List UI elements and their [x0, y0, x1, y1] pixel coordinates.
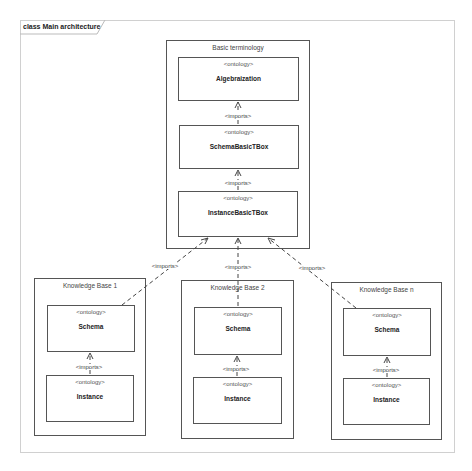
imports-label: <imports>	[224, 113, 253, 119]
imports-label: <imports>	[372, 367, 401, 373]
arrowhead-icons	[87, 102, 390, 363]
imports-arrow-kb1	[122, 238, 208, 305]
imports-label: <imports>	[222, 366, 251, 372]
imports-label: <imports>	[151, 263, 180, 269]
dependency-arrows	[0, 0, 472, 471]
imports-label: <imports>	[224, 264, 253, 270]
imports-label: <imports>	[224, 180, 253, 186]
imports-label: <imports>	[75, 364, 104, 370]
imports-arrow-kbn	[268, 238, 356, 308]
imports-label: <imports>	[298, 265, 327, 271]
